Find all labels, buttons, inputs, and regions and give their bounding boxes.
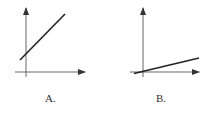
panel-a-label: A. [45,92,56,104]
panel-b-label: B. [156,92,166,104]
panel-a-graph [15,8,85,77]
diagram-canvas [0,0,208,116]
panel-b-graph [130,8,199,77]
panel-b-line [134,58,199,74]
panel-a-line [20,14,65,60]
